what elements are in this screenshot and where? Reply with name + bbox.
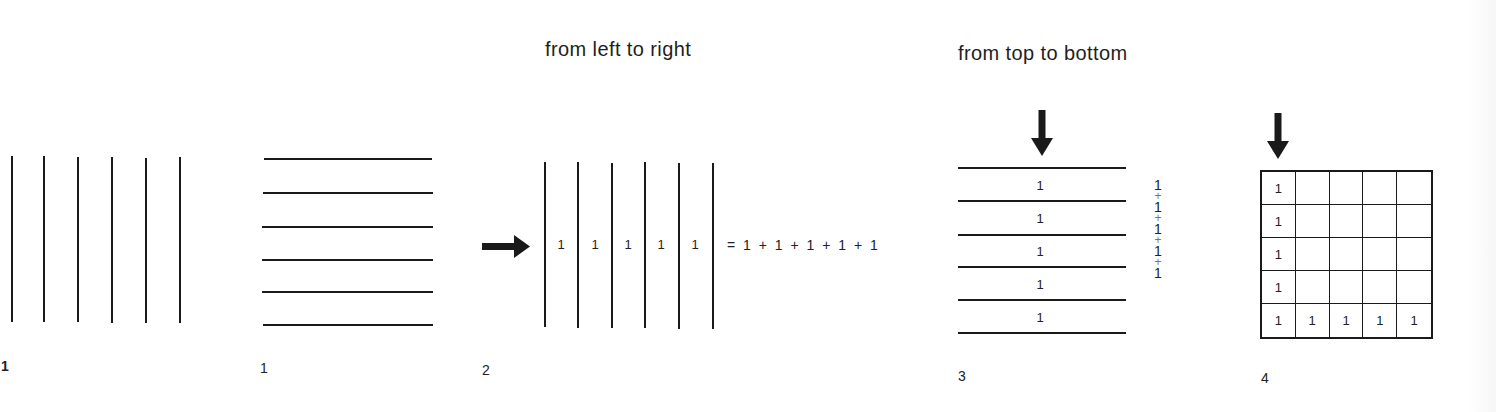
- strip-value: 1: [657, 237, 664, 252]
- grid-cell: [1330, 172, 1364, 205]
- strip-value: 1: [1036, 277, 1043, 292]
- count-grid: 1 1 1 1 1 1 1 1 1: [1260, 170, 1433, 339]
- vertical-line: [644, 162, 646, 328]
- grid-cell: 1: [1262, 205, 1296, 238]
- grid-cell: [1397, 172, 1431, 205]
- grid-cell: [1330, 271, 1364, 304]
- vertical-line: [712, 163, 714, 329]
- grid-cell: 1: [1262, 304, 1296, 337]
- strip-value: 1: [1036, 244, 1043, 259]
- horizontal-line: [264, 158, 432, 160]
- vertical-line: [678, 163, 680, 329]
- grid-cell: [1397, 205, 1431, 238]
- grid-cell: [1330, 238, 1364, 271]
- sum-equation: = 1 + 1 + 1 + 1 + 1: [727, 237, 880, 253]
- grid-cell: [1296, 205, 1330, 238]
- vertical-line: [577, 162, 579, 328]
- grid-cell: [1296, 172, 1330, 205]
- horizontal-line: [958, 266, 1126, 268]
- vertical-line: [611, 163, 613, 328]
- grid-cell: 1: [1397, 304, 1431, 337]
- figure-4-grid: 1 1 1 1 1 1 1 1 1 4: [1240, 0, 1460, 412]
- grid-cell: [1363, 271, 1397, 304]
- page-edge-shading: [1468, 0, 1496, 412]
- horizontal-line: [958, 332, 1126, 334]
- grid-cell: [1363, 205, 1397, 238]
- grid-cell: [1363, 238, 1397, 271]
- vertical-line: [145, 158, 147, 323]
- grid-cell: [1296, 238, 1330, 271]
- horizontal-line: [262, 226, 433, 228]
- strip-value: 1: [691, 237, 698, 252]
- grid-cell: [1296, 271, 1330, 304]
- figure-label: 1: [260, 360, 268, 376]
- figure-1a-vertical-lines: 1: [0, 0, 200, 412]
- strip-value: 1: [591, 237, 598, 252]
- figure-3-top-to-bottom: 1 1 1 1 1 1 + 1 + 1 + 1 + 1 3: [940, 0, 1180, 412]
- figure-label: 1: [1, 358, 9, 374]
- grid-cell: 1: [1363, 304, 1397, 337]
- figure-2-left-to-right: 1 1 1 1 1 = 1 + 1 + 1 + 1 + 1 2: [470, 0, 910, 412]
- strip-value: 1: [557, 237, 564, 252]
- right-arrow-icon: [482, 234, 532, 260]
- figure-1b-horizontal-lines: 1: [250, 0, 450, 412]
- figure-label: 3: [958, 368, 966, 384]
- vertical-line: [77, 157, 79, 322]
- figure-label: 2: [482, 362, 490, 378]
- horizontal-line: [262, 259, 433, 261]
- horizontal-line: [263, 192, 433, 194]
- figure-label: 4: [1261, 370, 1269, 386]
- horizontal-line: [263, 324, 433, 326]
- vertical-line: [11, 156, 13, 322]
- down-arrow-icon: [1266, 113, 1290, 161]
- grid-cell: [1397, 238, 1431, 271]
- grid-cell: 1: [1296, 304, 1330, 337]
- horizontal-line: [958, 234, 1126, 236]
- horizontal-line: [958, 167, 1126, 169]
- strip-value: 1: [624, 237, 631, 252]
- vertical-line: [111, 157, 113, 323]
- grid-cell: [1397, 271, 1431, 304]
- grid-cell: 1: [1262, 172, 1296, 205]
- horizontal-line: [262, 291, 433, 293]
- horizontal-line: [958, 299, 1126, 301]
- vertical-line: [43, 156, 45, 322]
- strip-value: 1: [1036, 310, 1043, 325]
- grid-cell: 1: [1262, 238, 1296, 271]
- grid-cell: [1330, 205, 1364, 238]
- vertical-sum: 1 + 1 + 1 + 1 + 1: [1151, 180, 1165, 279]
- vertical-line: [179, 157, 181, 323]
- grid-cell: [1363, 172, 1397, 205]
- strip-value: 1: [1036, 178, 1043, 193]
- sum-term: 1: [1151, 268, 1165, 279]
- horizontal-line: [958, 200, 1126, 202]
- strip-value: 1: [1036, 211, 1043, 226]
- grid-cell: 1: [1330, 304, 1364, 337]
- vertical-line: [544, 162, 546, 327]
- down-arrow-icon: [1030, 110, 1054, 158]
- grid-cell: 1: [1262, 271, 1296, 304]
